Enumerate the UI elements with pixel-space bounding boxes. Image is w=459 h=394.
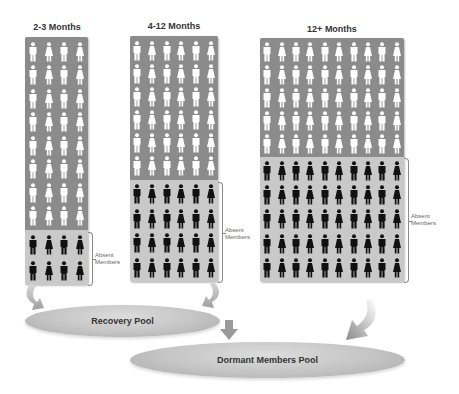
person-female-icon [44,261,54,281]
person-male-icon [291,65,301,85]
person-female-icon [363,161,373,181]
person-female-icon [305,42,315,62]
person-male-icon [162,110,172,130]
person-female-icon [305,161,315,181]
person-male-icon [320,161,330,181]
person-male-icon [59,235,69,255]
person-female-icon [334,88,344,108]
person-male-icon [320,134,330,154]
person-male-icon [262,42,272,62]
person-female-icon [206,87,216,107]
person-female-icon [277,234,287,254]
person-male-icon [262,258,272,278]
person-female-icon [277,111,287,131]
person-female-icon [277,65,287,85]
recovery-pool: Recovery Pool [25,305,220,337]
person-male-icon [132,184,142,204]
person-male-icon [59,65,69,85]
person-female-icon [334,209,344,229]
person-female-icon [305,234,315,254]
person-female-icon [206,64,216,84]
person-female-icon [44,183,54,203]
person-female-icon [44,206,54,226]
absent-members-grid [260,159,404,280]
person-male-icon [291,88,301,108]
person-male-icon [28,235,38,255]
person-male-icon [320,258,330,278]
person-female-icon [75,42,85,62]
person-male-icon [349,111,359,131]
person-male-icon [349,185,359,205]
group-title-4-12-months: 4-12 Months [130,21,218,31]
person-female-icon [305,134,315,154]
person-male-icon [291,134,301,154]
person-female-icon [334,234,344,254]
person-male-icon [320,42,330,62]
person-female-icon [305,185,315,205]
person-female-icon [44,235,54,255]
person-male-icon [162,64,172,84]
person-female-icon [277,209,287,229]
person-male-icon [59,112,69,132]
person-male-icon [28,159,38,179]
person-male-icon [349,258,359,278]
person-male-icon [28,112,38,132]
person-male-icon [162,233,172,253]
person-female-icon [392,134,402,154]
person-male-icon [262,65,272,85]
person-female-icon [176,87,186,107]
person-female-icon [305,258,315,278]
person-male-icon [349,209,359,229]
person-male-icon [28,136,38,156]
person-male-icon [291,42,301,62]
person-male-icon [191,87,201,107]
person-male-icon [132,133,142,153]
person-female-icon [176,41,186,61]
person-female-icon [75,112,85,132]
absent-members-label: Absent Members [225,227,255,241]
person-female-icon [363,185,373,205]
person-male-icon [320,65,330,85]
person-female-icon [334,65,344,85]
absent-members-brace [88,232,93,286]
group-title-2-3-months: 2-3 Months [25,22,89,32]
person-female-icon [392,111,402,131]
dormant-members-pool-label: Dormant Members Pool [217,355,318,365]
person-male-icon [291,209,301,229]
person-male-icon [377,134,387,154]
person-male-icon [132,64,142,84]
person-male-icon [262,161,272,181]
person-female-icon [176,64,186,84]
person-female-icon [363,234,373,254]
person-male-icon [349,161,359,181]
person-male-icon [377,65,387,85]
person-female-icon [176,233,186,253]
down-arrow-icon [220,320,238,340]
person-female-icon [277,185,287,205]
person-female-icon [75,206,85,226]
person-male-icon [59,159,69,179]
person-female-icon [206,156,216,176]
person-male-icon [262,134,272,154]
person-female-icon [147,64,157,84]
person-male-icon [191,258,201,278]
person-male-icon [162,184,172,204]
person-male-icon [191,41,201,61]
person-male-icon [377,111,387,131]
person-male-icon [191,64,201,84]
person-female-icon [176,133,186,153]
person-female-icon [277,161,287,181]
person-male-icon [132,258,142,278]
person-male-icon [162,209,172,229]
person-male-icon [291,185,301,205]
group-title-12-plus-months: 12+ Months [260,24,404,34]
person-male-icon [191,110,201,130]
active-members-grid [260,40,404,155]
person-female-icon [334,161,344,181]
person-male-icon [162,258,172,278]
person-male-icon [162,133,172,153]
person-female-icon [147,209,157,229]
person-female-icon [206,110,216,130]
person-female-icon [147,233,157,253]
person-female-icon [44,65,54,85]
